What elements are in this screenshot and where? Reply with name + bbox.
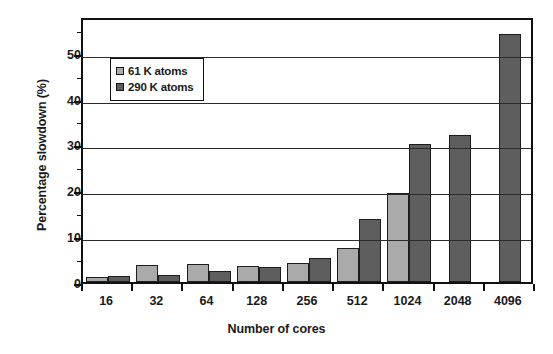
- gridline: [83, 148, 531, 149]
- x-tick-mark: [433, 284, 435, 291]
- light-gray-swatch: [116, 67, 124, 75]
- legend-label: 61 K atoms: [128, 65, 187, 77]
- x-axis-title: Number of cores: [0, 322, 553, 336]
- bar-128-series0: [237, 266, 259, 282]
- y-tick-minor: [77, 261, 82, 262]
- bar-group: [334, 20, 384, 282]
- x-tick-mark: [232, 284, 234, 291]
- y-tick-minor: [77, 169, 82, 170]
- gridline: [83, 103, 531, 104]
- legend-entry: 61 K atoms: [116, 63, 194, 79]
- x-tick-mark: [282, 284, 284, 291]
- x-tick-mark: [533, 284, 535, 291]
- bar-group: [284, 20, 334, 282]
- bar-256-series0: [287, 263, 309, 282]
- bar-2048-series1: [449, 135, 471, 282]
- gridline: [83, 194, 531, 195]
- gridline: [83, 240, 531, 241]
- bar-group: [234, 20, 284, 282]
- bar-group: [435, 20, 485, 282]
- bar-group: [485, 20, 535, 282]
- dark-gray-swatch: [116, 83, 124, 91]
- x-tick-mark: [131, 284, 133, 291]
- y-tick-mark: [74, 55, 82, 57]
- legend-label: 290 K atoms: [128, 81, 194, 93]
- y-tick-minor: [77, 32, 82, 33]
- bar-64-series1: [209, 271, 231, 282]
- bar-64-series0: [187, 264, 209, 282]
- bar-chart-figure: Percentage slowdown (%) 01020304050 61 K…: [0, 0, 553, 354]
- bar-512-series0: [337, 248, 359, 282]
- y-tick-mark: [74, 238, 82, 240]
- bar-1024-series0: [387, 193, 409, 282]
- y-tick-mark: [74, 192, 82, 194]
- x-tick-mark: [332, 284, 334, 291]
- bar-512-series1: [359, 219, 381, 282]
- y-tick-minor: [77, 78, 82, 79]
- chart-legend: 61 K atoms290 K atoms: [110, 58, 204, 101]
- bar-16-series0: [86, 277, 108, 282]
- x-tick-mark: [81, 284, 83, 291]
- x-tick-label-4096: 4096: [478, 294, 538, 308]
- bar-16-series1: [108, 276, 130, 282]
- bar-128-series1: [259, 267, 281, 282]
- bar-1024-series1: [409, 144, 431, 282]
- y-tick-mark: [74, 146, 82, 148]
- bar-group: [384, 20, 434, 282]
- y-axis-tick-labels: 01020304050: [0, 0, 81, 354]
- x-tick-mark: [483, 284, 485, 291]
- bar-32-series0: [136, 265, 158, 282]
- y-tick-minor: [77, 123, 82, 124]
- x-tick-mark: [181, 284, 183, 291]
- legend-entry: 290 K atoms: [116, 79, 194, 95]
- y-tick-minor: [77, 215, 82, 216]
- bar-32-series1: [158, 275, 180, 282]
- x-tick-mark: [382, 284, 384, 291]
- y-tick-mark: [74, 101, 82, 103]
- bar-256-series1: [309, 258, 331, 282]
- bar-4096-series1: [499, 34, 521, 282]
